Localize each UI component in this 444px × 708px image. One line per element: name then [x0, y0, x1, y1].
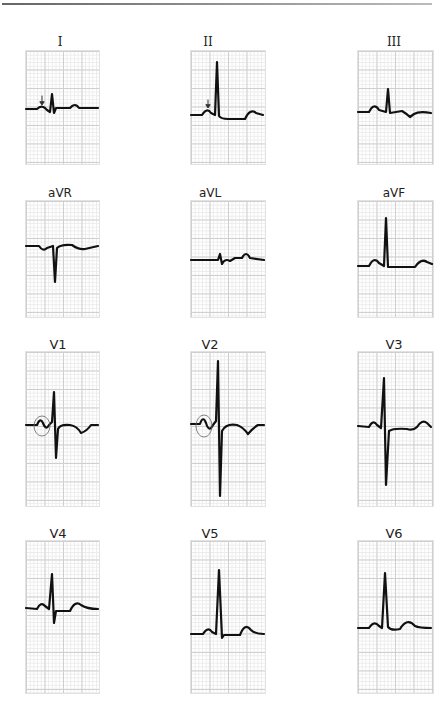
lead-label-II: II — [188, 35, 228, 49]
lead-label-V3: V3 — [374, 337, 414, 352]
lead-label-aVL: aVL — [190, 186, 230, 200]
lead-label-V5: V5 — [190, 526, 230, 541]
lead-label-I: I — [40, 35, 80, 49]
lead-label-aVR: aVR — [40, 186, 80, 200]
ecg-trace-V1 — [25, 351, 100, 505]
top-rule — [2, 3, 432, 5]
ecg-trace-V2 — [190, 351, 266, 505]
lead-label-V6: V6 — [374, 526, 414, 541]
lead-label-III: III — [374, 35, 414, 49]
ecg-trace-I — [25, 50, 100, 163]
ecg-trace-V4 — [25, 540, 100, 692]
ecg-trace-V5 — [190, 540, 266, 692]
lead-label-V2: V2 — [190, 337, 230, 352]
ecg-trace-III — [357, 50, 434, 163]
lead-label-V4: V4 — [38, 526, 78, 541]
ecg-trace-aVL — [190, 200, 266, 316]
lead-label-V1: V1 — [38, 337, 78, 352]
ecg-trace-V3 — [357, 351, 434, 505]
ecg-trace-II — [190, 50, 266, 163]
lead-label-aVF: aVF — [374, 186, 414, 200]
ecg-trace-V6 — [357, 540, 434, 692]
ecg-trace-aVF — [357, 200, 434, 316]
ecg-trace-aVR — [25, 200, 100, 316]
